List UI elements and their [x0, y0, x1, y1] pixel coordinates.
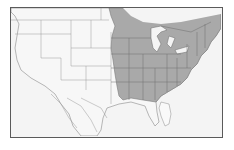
- map-frame: [10, 7, 223, 138]
- range-map: [11, 8, 221, 136]
- florida-peninsula: [159, 102, 171, 126]
